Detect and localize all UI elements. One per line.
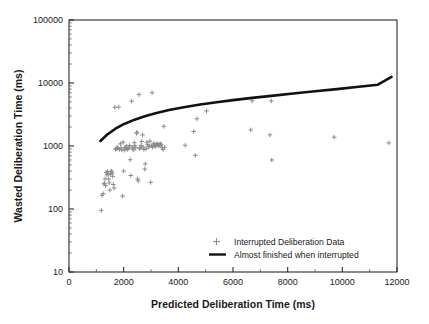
x-tick-label: 12000	[384, 277, 409, 287]
y-tick-label: 1000	[43, 141, 63, 151]
x-tick-label: 0	[66, 277, 71, 287]
legend-label-scatter: Interrupted Deliberation Data	[234, 237, 345, 247]
y-tick-label: 10	[53, 267, 63, 277]
x-tick-label: 6000	[223, 277, 243, 287]
x-tick-label: 2000	[114, 277, 134, 287]
chart-figure: 10100100010000100000 0200040006000800010…	[0, 0, 429, 324]
legend-label-line: Almost finished when interrupted	[234, 250, 359, 260]
y-tick-label: 10000	[38, 78, 63, 88]
y-tick-label: 100000	[33, 15, 63, 25]
y-tick-label: 100	[48, 204, 63, 214]
x-axis-title: Predicted Deliberation Time (ms)	[151, 298, 315, 310]
y-axis-title: Wasted Deliberation Time (ms)	[12, 70, 24, 223]
figure-background	[0, 0, 429, 324]
x-tick-label: 8000	[278, 277, 298, 287]
x-tick-label: 10000	[330, 277, 355, 287]
x-tick-label: 4000	[168, 277, 188, 287]
